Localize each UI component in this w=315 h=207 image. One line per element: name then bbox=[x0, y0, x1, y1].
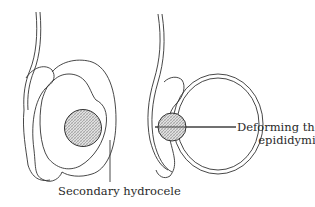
epididymis-label-line-2: epididymis bbox=[237, 134, 315, 147]
diagram-drawing bbox=[0, 0, 315, 207]
epididymis-left bbox=[26, 67, 62, 182]
tumour-left bbox=[65, 110, 102, 147]
right-testis-figure bbox=[148, 14, 263, 178]
spermatic-cord-left bbox=[24, 12, 37, 110]
secondary-hydrocele-label: Secondary hydrocele bbox=[58, 185, 181, 198]
diagram-canvas: Secondary hydrocele Deforming the epidid… bbox=[0, 0, 315, 207]
left-testis-figure bbox=[23, 12, 116, 182]
spermatic-cord-right bbox=[148, 14, 168, 170]
deforming-epididymis-label: Deforming the epididymis bbox=[237, 121, 315, 147]
